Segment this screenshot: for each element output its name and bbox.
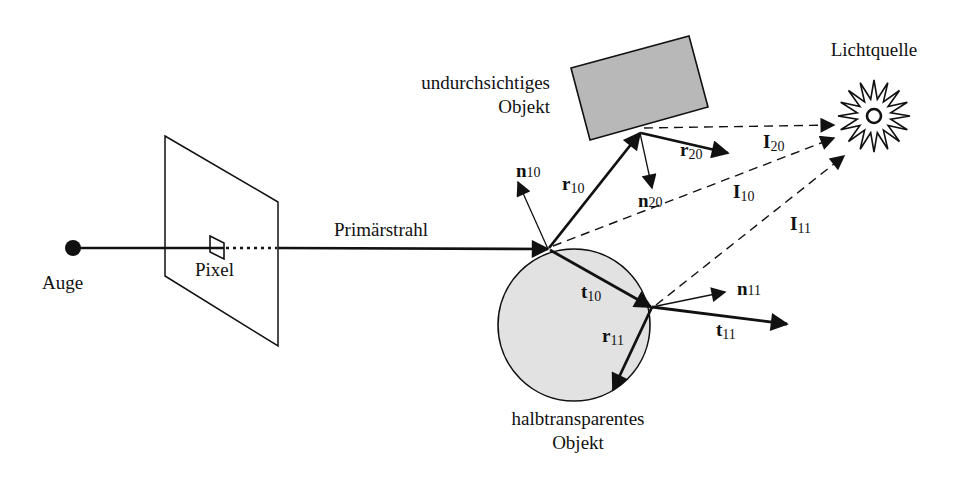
normal-n10: [518, 182, 548, 249]
label-I11: I11: [790, 213, 811, 236]
opaque-object-label-2: Objekt: [498, 96, 550, 117]
translucent-sphere: [498, 249, 650, 401]
label-n20: n20: [638, 190, 663, 211]
label-t11: t11: [716, 319, 736, 342]
translucent-object-label-2: Objekt: [552, 432, 604, 453]
label-I10: I10: [733, 181, 754, 204]
label-I20: I20: [763, 131, 784, 154]
eye-label: Auge: [42, 272, 83, 293]
label-r20: r20: [680, 139, 702, 162]
shadow-ray-I20: [644, 125, 834, 128]
opaque-box: [571, 36, 708, 140]
primary-ray-label: Primärstrahl: [334, 219, 428, 240]
translucent-object-label-1: halbtransparentes: [512, 408, 645, 429]
normal-n20: [640, 133, 652, 188]
label-r10: r10: [562, 173, 584, 196]
light-source-icon: [838, 80, 910, 152]
primary-ray-back: [278, 248, 548, 249]
opaque-object-label-1: undurchsichtiges: [421, 72, 550, 93]
light-source-label: Lichtquelle: [831, 39, 918, 60]
label-n11: n11: [737, 278, 761, 299]
label-n10: n10: [516, 160, 541, 181]
pixel-label: Pixel: [195, 259, 234, 280]
ray-tracing-diagram: Auge Pixel Primärstrahl undurchsichtiges…: [0, 0, 967, 492]
